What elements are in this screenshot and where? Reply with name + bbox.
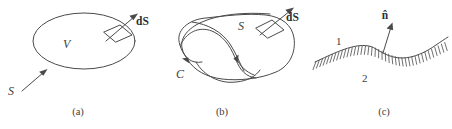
panel-a-caption: (a) [72,106,84,118]
interface-hatching [313,43,447,70]
boundary-curve-arrowhead-left [182,58,190,64]
normal-vector-arrowhead [387,23,394,31]
panel-c-interface: n̂ 1 2 (c) [300,0,452,129]
surface-leader-line [22,72,44,91]
normal-vector-label: n̂ [382,9,389,21]
surface-label: S [238,19,244,33]
panel-a-closed-surface: dS V S (a) [0,0,150,129]
panel-c-caption: (c) [378,106,390,118]
area-element-label: dS [286,11,299,23]
region-two-label: 2 [362,72,368,84]
area-element-label: dS [136,15,149,27]
panel-b-open-surface: dS S C (b) [150,0,310,129]
normal-vector-line [383,27,391,53]
interface-curve [315,37,448,62]
region-one-label: 1 [336,35,342,47]
surface-label: S [8,84,14,98]
volume-label: V [63,37,72,51]
panel-b-caption: (b) [216,106,229,118]
figure-container: dS V S (a) dS S C [0,0,452,129]
boundary-curve-label: C [176,67,185,81]
open-surface-rim [181,29,256,78]
closed-surface-ellipse [33,13,135,69]
